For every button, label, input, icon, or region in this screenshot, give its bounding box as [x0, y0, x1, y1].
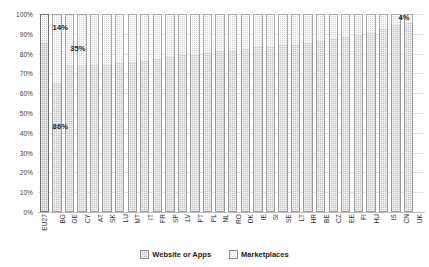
bar-segment-website-or-apps[interactable]	[379, 28, 388, 212]
stacked-bar[interactable]	[303, 14, 312, 212]
bar-segment-website-or-apps[interactable]	[90, 64, 99, 213]
bar-padding	[51, 14, 64, 212]
bar-group	[377, 14, 390, 212]
bar-segment-marketplaces[interactable]	[65, 14, 74, 65]
bar-segment-website-or-apps[interactable]	[178, 54, 187, 212]
stacked-bar[interactable]	[178, 14, 187, 212]
bar-segment-website-or-apps[interactable]	[241, 48, 250, 212]
stacked-bar[interactable]	[316, 14, 325, 212]
bar-segment-marketplaces[interactable]	[303, 14, 312, 42]
bar-segment-marketplaces[interactable]	[253, 14, 262, 46]
bar-segment-marketplaces[interactable]	[90, 14, 99, 64]
bar-segment-marketplaces[interactable]	[329, 14, 338, 38]
x-axis-tick-label: CY	[83, 214, 90, 223]
bar-segment-website-or-apps[interactable]	[77, 65, 86, 212]
bar-segment-website-or-apps[interactable]	[165, 56, 174, 212]
stacked-bar[interactable]	[329, 14, 338, 212]
stacked-bar[interactable]	[165, 14, 174, 212]
stacked-bar[interactable]	[354, 14, 363, 212]
stacked-bar[interactable]	[266, 14, 275, 212]
bar-segment-website-or-apps[interactable]	[102, 64, 111, 213]
bar-segment-marketplaces[interactable]	[341, 14, 350, 36]
stacked-bar[interactable]	[278, 14, 287, 212]
stacked-bar[interactable]	[40, 14, 49, 212]
bar-segment-marketplaces[interactable]	[128, 14, 137, 62]
stacked-bar[interactable]	[153, 14, 162, 212]
bar-segment-website-or-apps[interactable]	[203, 52, 212, 212]
y-axis-tick: 0%	[23, 209, 33, 216]
bar-group	[126, 14, 139, 212]
stacked-bar[interactable]	[102, 14, 111, 212]
bar-segment-marketplaces[interactable]	[291, 14, 300, 44]
stacked-bar[interactable]	[379, 14, 388, 212]
stacked-bar[interactable]	[366, 14, 375, 212]
stacked-bar[interactable]	[203, 14, 212, 212]
legend-item[interactable]: Marketplaces	[229, 250, 289, 259]
bar-segment-marketplaces[interactable]	[140, 14, 149, 60]
bar-segment-marketplaces[interactable]	[316, 14, 325, 40]
bar-padding	[264, 14, 277, 212]
y-axis-tick: 80%	[20, 50, 33, 57]
bar-segment-marketplaces[interactable]	[153, 14, 162, 58]
bar-segment-website-or-apps[interactable]	[65, 65, 74, 212]
x-axis-tick-label: MT	[134, 214, 141, 224]
bar-segment-marketplaces[interactable]	[379, 14, 388, 28]
bar-segment-website-or-apps[interactable]	[329, 38, 338, 212]
stacked-bar[interactable]	[253, 14, 262, 212]
bar-segment-website-or-apps[interactable]	[128, 62, 137, 212]
stacked-bar[interactable]	[128, 14, 137, 212]
y-axis-tick: 70%	[20, 70, 33, 77]
bar-segment-website-or-apps[interactable]	[316, 40, 325, 212]
bar-segment-website-or-apps[interactable]	[215, 50, 224, 212]
bar-padding	[365, 14, 378, 212]
bar-padding	[176, 14, 189, 212]
bar-segment-marketplaces[interactable]	[115, 14, 124, 62]
stacked-bar[interactable]	[115, 14, 124, 212]
stacked-bar[interactable]	[241, 14, 250, 212]
stacked-bar[interactable]	[404, 14, 413, 212]
bar-segment-marketplaces[interactable]	[354, 14, 363, 34]
bar-segment-website-or-apps[interactable]	[140, 60, 149, 212]
bar-segment-marketplaces[interactable]	[40, 14, 49, 42]
bar-segment-website-or-apps[interactable]	[391, 24, 400, 212]
bar-segment-website-or-apps[interactable]	[341, 36, 350, 212]
bar-segment-website-or-apps[interactable]	[278, 44, 287, 212]
bar-segment-marketplaces[interactable]	[102, 14, 111, 64]
stacked-bar[interactable]	[391, 14, 400, 212]
stacked-bar[interactable]	[90, 14, 99, 212]
bar-segment-website-or-apps[interactable]	[115, 62, 124, 212]
bar-segment-website-or-apps[interactable]	[404, 22, 413, 212]
bar-segment-marketplaces[interactable]	[266, 14, 275, 46]
bar-segment-marketplaces[interactable]	[366, 14, 375, 32]
stacked-bar[interactable]	[190, 14, 199, 212]
bar-segment-marketplaces[interactable]	[165, 14, 174, 56]
bar-segment-website-or-apps[interactable]	[40, 42, 49, 212]
bar-segment-website-or-apps[interactable]	[291, 44, 300, 212]
bar-segment-website-or-apps[interactable]	[354, 34, 363, 212]
bar-segment-website-or-apps[interactable]	[303, 42, 312, 212]
bar-segment-website-or-apps[interactable]	[228, 50, 237, 212]
stacked-bar[interactable]	[52, 14, 61, 212]
bar-segment-marketplaces[interactable]	[203, 14, 212, 52]
bar-segment-website-or-apps[interactable]	[153, 58, 162, 212]
stacked-bar[interactable]	[215, 14, 224, 212]
bar-segment-website-or-apps[interactable]	[266, 46, 275, 212]
x-axis-tick: NL	[219, 213, 232, 247]
stacked-bar[interactable]	[140, 14, 149, 212]
bar-segment-website-or-apps[interactable]	[253, 46, 262, 212]
bar-segment-marketplaces[interactable]	[178, 14, 187, 54]
bar-segment-website-or-apps[interactable]	[190, 54, 199, 212]
stacked-bar[interactable]	[291, 14, 300, 212]
stacked-bar[interactable]	[228, 14, 237, 212]
bar-segment-marketplaces[interactable]	[278, 14, 287, 44]
x-axis-tick: SP	[169, 213, 182, 247]
bar-segment-marketplaces[interactable]	[215, 14, 224, 50]
stacked-bar[interactable]	[341, 14, 350, 212]
bar-segment-marketplaces[interactable]	[77, 14, 86, 65]
bar-segment-website-or-apps[interactable]	[366, 32, 375, 212]
bar-segment-marketplaces[interactable]	[228, 14, 237, 50]
bar-segment-marketplaces[interactable]	[190, 14, 199, 54]
legend-item[interactable]: Website or Apps	[140, 250, 211, 259]
bar-segment-website-or-apps[interactable]	[52, 83, 61, 212]
bar-segment-marketplaces[interactable]	[241, 14, 250, 48]
